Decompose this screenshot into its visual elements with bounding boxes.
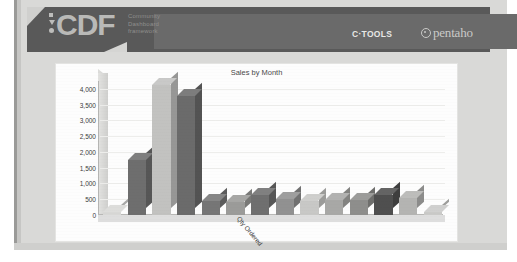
chart-bar[interactable] xyxy=(300,201,318,215)
bar-front-face xyxy=(300,201,318,215)
bar-front-face xyxy=(128,160,146,215)
header-step-triangle xyxy=(104,42,127,52)
cdf-logo-subtitle: Community Dashboard framework xyxy=(128,13,198,36)
ctools-logo[interactable]: C·TOOLS xyxy=(352,29,392,39)
chart-bar[interactable] xyxy=(276,199,294,215)
y-tick-label: 2,000 xyxy=(80,148,96,155)
chart-bar[interactable] xyxy=(177,96,195,215)
bar-front-face xyxy=(202,201,220,215)
logo-dot-circle xyxy=(49,28,54,33)
chart-y-axis-labels: 05001,0001,5002,0002,5003,0003,5004,000 xyxy=(58,81,96,215)
chart-panel: Sales by Month 05001,0001,5002,0002,5003… xyxy=(55,63,458,242)
chart-bar[interactable] xyxy=(152,85,170,215)
bar-front-face xyxy=(103,212,121,215)
bar-front-face xyxy=(177,96,195,215)
pentaho-circle-icon xyxy=(421,28,431,38)
y-tick-label: 1,000 xyxy=(80,180,96,187)
chart-bar[interactable] xyxy=(251,195,269,215)
cdf-logo-subtitle-line-3: framework xyxy=(128,28,198,36)
logo-dot-triangle xyxy=(49,20,55,25)
chart-plot-area: 05001,0001,5002,0002,5003,0003,5004,000 xyxy=(100,81,445,215)
bar-front-face xyxy=(325,200,343,215)
y-tick-label: 500 xyxy=(85,196,96,203)
y-tick-label: 3,500 xyxy=(80,101,96,108)
y-tick-label: 2,500 xyxy=(80,133,96,140)
bar-front-face xyxy=(374,195,392,215)
chart-bar[interactable] xyxy=(350,200,368,215)
chart-bar[interactable] xyxy=(226,202,244,215)
chart-title: Sales by Month xyxy=(56,68,457,77)
chart-bars xyxy=(100,81,445,215)
chart-bar[interactable] xyxy=(103,212,121,215)
bar-top-face xyxy=(424,205,449,212)
bar-front-face xyxy=(350,200,368,215)
bar-top-face xyxy=(103,205,128,212)
bar-front-face xyxy=(276,199,294,215)
y-tick-label: 0 xyxy=(92,212,96,219)
chart-bar[interactable] xyxy=(325,200,343,215)
chart-bar[interactable] xyxy=(374,195,392,215)
bar-front-face xyxy=(424,212,442,215)
chart-floor xyxy=(98,215,445,222)
cdf-logo-subtitle-line-1: Community xyxy=(128,13,198,21)
pentaho-logo[interactable]: pentaho xyxy=(421,26,473,40)
chart-bar[interactable] xyxy=(128,160,146,215)
bar-side-face xyxy=(195,83,202,208)
logo-dot-square xyxy=(49,13,53,17)
y-tick-label: 4,000 xyxy=(80,85,96,92)
chart-bar[interactable] xyxy=(399,198,417,215)
y-tick-label: 3,000 xyxy=(80,117,96,124)
chart-bar[interactable] xyxy=(424,212,442,215)
bar-front-face xyxy=(226,202,244,215)
page-left-edge-inner xyxy=(17,0,21,250)
cdf-logo-dots xyxy=(49,13,56,39)
cdf-logo-subtitle-line-2: Dashboard xyxy=(128,21,198,29)
y-tick-label: 1,500 xyxy=(80,164,96,171)
bar-front-face xyxy=(399,198,417,215)
pentaho-logo-text: pentaho xyxy=(433,25,473,41)
header-corner-notch xyxy=(27,7,45,26)
bar-front-face xyxy=(251,195,269,215)
chart-bar[interactable] xyxy=(202,201,220,215)
bar-front-face xyxy=(152,85,170,215)
chart-y-axis xyxy=(98,81,99,215)
cdf-logo-text[interactable]: CDF xyxy=(56,9,115,41)
